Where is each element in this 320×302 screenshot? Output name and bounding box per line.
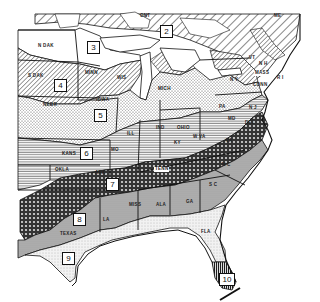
state-label-fla: FLA bbox=[201, 230, 211, 235]
zone-label-6: 6 bbox=[80, 147, 93, 160]
state-label-sc: S C bbox=[209, 183, 217, 188]
state-label-ny: N Y bbox=[230, 78, 238, 83]
state-label-wis: WIS bbox=[117, 76, 126, 81]
state-label-me: ME bbox=[274, 14, 281, 19]
state-label-nebr: NEBR bbox=[43, 103, 57, 108]
zone-label-9: 9 bbox=[62, 252, 75, 265]
state-label-nj: N J bbox=[249, 106, 257, 111]
state-label-kans: KANS bbox=[62, 152, 76, 157]
state-label-ill: ILL bbox=[127, 132, 135, 137]
state-label-pa: PA bbox=[219, 105, 226, 110]
state-label-ark: ARK bbox=[95, 171, 106, 176]
state-label-mo: MO bbox=[111, 148, 119, 153]
state-label-nc: N C bbox=[222, 163, 231, 168]
state-label-nh: N H bbox=[259, 62, 268, 67]
state-label-mass: MASS bbox=[254, 71, 270, 76]
state-label-va: VA bbox=[226, 139, 233, 144]
state-label-ind: IND bbox=[156, 126, 165, 131]
state-label-iowa: IOWA bbox=[96, 98, 109, 103]
zone-label-2: 2 bbox=[160, 25, 173, 38]
zone-label-5: 5 bbox=[94, 109, 107, 122]
state-label-ga: GA bbox=[186, 200, 193, 205]
state-label-vt: VT bbox=[249, 56, 255, 61]
state-label-n-dak: N DAK bbox=[38, 44, 54, 49]
state-label-ala: ALA bbox=[156, 203, 166, 208]
state-label-texas: TEXAS bbox=[60, 232, 77, 237]
zone-label-7: 7 bbox=[106, 178, 119, 191]
zone-label-3: 3 bbox=[87, 41, 100, 54]
state-label-w-va: W VA bbox=[193, 135, 206, 140]
state-label-ohio: OHIO bbox=[177, 126, 190, 131]
zone-label-10: 10 bbox=[219, 273, 235, 286]
state-label-la: LA bbox=[103, 218, 110, 223]
state-label-minn: MINN bbox=[85, 71, 98, 76]
zone-label-8: 8 bbox=[73, 213, 86, 226]
state-label-ont: ONT bbox=[140, 14, 150, 19]
state-label-ky: KY bbox=[174, 141, 181, 146]
zone-label-4: 4 bbox=[54, 79, 67, 92]
state-label-tenn: TENN bbox=[154, 167, 169, 172]
state-label-conn: CONN bbox=[253, 83, 267, 88]
state-label-s-dak: S DAK bbox=[28, 74, 44, 79]
state-label-del: DEL bbox=[245, 121, 255, 126]
state-label-okla: OKLA bbox=[55, 168, 69, 173]
state-label-md: MD bbox=[228, 117, 236, 122]
state-label-ri: R I bbox=[277, 76, 284, 81]
state-label-mich: MICH bbox=[158, 87, 171, 92]
state-label-miss: MISS bbox=[129, 203, 141, 208]
